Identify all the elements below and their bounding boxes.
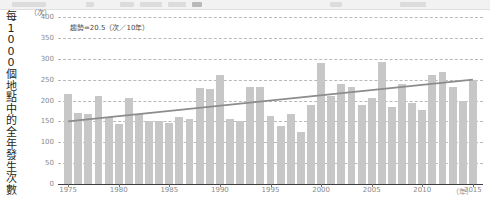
- trend-annotation: 趨勢=20.5（次／10年）: [70, 22, 149, 32]
- trend-line: [58, 17, 483, 184]
- y-axis-tick-label: 50: [45, 159, 54, 167]
- x-axis-tick-label: 2010: [413, 186, 431, 194]
- toolbar-chip[interactable]: [120, 2, 134, 7]
- x-axis-tick: [271, 184, 272, 187]
- x-axis-tick: [473, 184, 474, 187]
- y-axis-tick-label: 200: [41, 97, 54, 105]
- y-axis-title-char: 點: [1, 92, 21, 104]
- toolbar-chip[interactable]: [86, 2, 94, 7]
- toolbar-chip[interactable]: [330, 2, 342, 7]
- y-axis-title-text: 每1000個地點中的全年發生次數: [1, 11, 21, 197]
- y-axis-title: 每1000個地點中的全年發生次數: [1, 11, 21, 211]
- x-axis-unit-label: （年）: [452, 186, 473, 196]
- y-axis-tick-label: 100: [41, 138, 54, 146]
- y-axis-tick-label: 150: [41, 117, 54, 125]
- y-axis-title-char: 數: [1, 185, 21, 197]
- x-axis-tick: [169, 184, 170, 187]
- x-axis-tick: [220, 184, 221, 187]
- y-axis-tick-label: 250: [41, 76, 54, 84]
- x-axis-tick-labels: 197519801985199019952000200520102015: [58, 186, 483, 200]
- y-axis-tick-labels: 050100150200250300350400: [26, 17, 56, 184]
- x-axis-tick-label: 1975: [59, 186, 77, 194]
- y-axis-tick-label: 400: [41, 13, 54, 21]
- x-axis-tick-label: 2005: [363, 186, 381, 194]
- y-axis-tick-label: 0: [50, 180, 54, 188]
- x-axis-tick-label: 1990: [211, 186, 229, 194]
- x-axis-tick-label: 1985: [160, 186, 178, 194]
- x-axis-tick: [321, 184, 322, 187]
- toolbar-chip[interactable]: [168, 2, 186, 7]
- toolbar-chip[interactable]: [140, 2, 162, 7]
- plot-area: [58, 17, 483, 184]
- x-axis-tick: [372, 184, 373, 187]
- y-axis-title-char: 每: [1, 11, 21, 23]
- chart-screenshot: 每1000個地點中的全年發生次數 （次） 0501001502002503003…: [0, 0, 490, 213]
- x-axis-tick: [119, 184, 120, 187]
- y-axis-title-char: 個: [1, 69, 21, 81]
- y-axis-tick-label: 300: [41, 55, 54, 63]
- y-axis-tick-label: 350: [41, 34, 54, 42]
- x-axis-tick-label: 1995: [262, 186, 280, 194]
- x-axis-tick-label: 1980: [110, 186, 128, 194]
- app-toolbar-strip[interactable]: [0, 0, 490, 10]
- x-axis-tick: [68, 184, 69, 187]
- x-axis-tick-label: 2000: [312, 186, 330, 194]
- x-axis-tick: [422, 184, 423, 187]
- toolbar-chip[interactable]: [400, 2, 426, 7]
- toolbar-chip-active[interactable]: [192, 2, 202, 7]
- y-axis-title-char: 全: [1, 127, 21, 139]
- y-axis-title-char: 發: [1, 150, 21, 162]
